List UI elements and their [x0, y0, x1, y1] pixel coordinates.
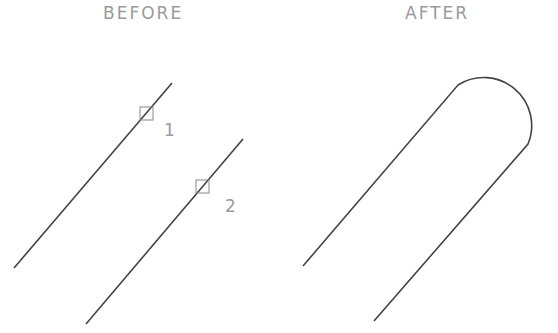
- after-fillet-shape: [303, 78, 532, 321]
- after-group: [303, 78, 532, 321]
- before-line-1: [14, 83, 172, 268]
- before-group: [14, 83, 243, 324]
- diagram-canvas: [0, 0, 558, 333]
- before-line-2: [86, 139, 243, 324]
